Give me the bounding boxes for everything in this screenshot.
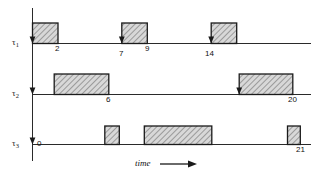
time-axis-caption: time xyxy=(135,158,151,168)
time-axis-arrow xyxy=(160,161,197,168)
tick-label-tau2-20: 20 xyxy=(288,95,297,104)
marker-group-tau3 xyxy=(30,138,36,145)
pulse-tau1-0 xyxy=(33,23,59,44)
timing-diagram-canvas xyxy=(0,0,325,177)
tick-label-tau1-2: 2 xyxy=(55,44,59,53)
arrow-right-icon xyxy=(188,161,197,168)
tick-label-tau3-0: 0 xyxy=(37,139,41,148)
track-label-tau1-sub: 1 xyxy=(16,41,19,48)
pulse-tau3-2 xyxy=(288,126,301,145)
pulse-tau2-0 xyxy=(54,74,109,95)
tick-label-tau1-14: 14 xyxy=(205,49,214,58)
tick-label-tau1-9: 9 xyxy=(145,44,149,53)
pulse-group-tau3 xyxy=(105,126,300,145)
pulse-group-tau1 xyxy=(33,23,237,44)
tick-label-tau2-6: 6 xyxy=(106,95,110,104)
timing-diagram: τ1 τ2 τ3 2 7 9 14 6 20 0 21 time xyxy=(0,0,325,177)
tick-label-tau3-21: 21 xyxy=(296,145,305,154)
pulse-tau3-1 xyxy=(144,126,212,145)
pulse-tau2-1 xyxy=(239,74,293,95)
pulse-tau1-2 xyxy=(211,23,237,44)
track-label-tau3-sub: 3 xyxy=(16,142,19,149)
pulse-tau1-1 xyxy=(122,23,148,44)
track-label-tau1: τ1 xyxy=(12,37,19,47)
track-label-tau3: τ3 xyxy=(12,138,19,148)
arrival-marker-tau3-0 xyxy=(30,138,36,145)
tick-label-tau1-7: 7 xyxy=(119,49,123,58)
pulse-group-tau2 xyxy=(54,74,293,95)
pulse-tau3-0 xyxy=(105,126,120,145)
track-label-tau2: τ2 xyxy=(12,88,19,98)
track-label-tau2-sub: 2 xyxy=(16,92,19,99)
arrival-marker-tau2-0 xyxy=(30,88,36,95)
